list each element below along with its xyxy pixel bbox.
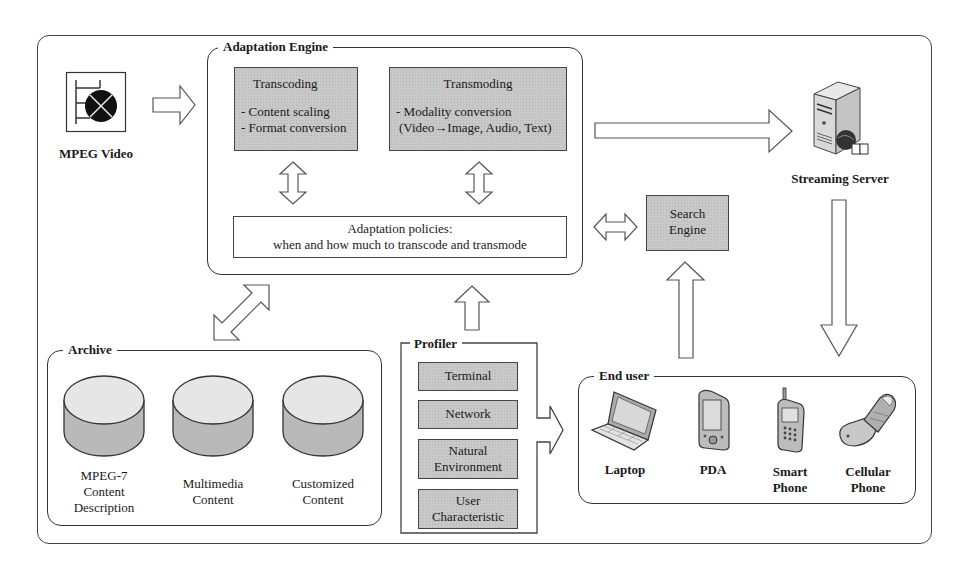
archive-store: Customized Content — [282, 372, 364, 522]
policies-line2: when and how much to transcode and trans… — [234, 237, 566, 253]
database-icon — [172, 372, 254, 460]
bidirectional-arrow-icon — [279, 162, 309, 206]
search-engine-module: Search Engine — [646, 195, 729, 251]
archive-store-label: Content — [272, 492, 374, 508]
mpeg-video-node — [66, 72, 126, 132]
archive-store-label: Description — [53, 500, 155, 516]
end-user-title: End user — [594, 369, 654, 383]
search-engine-line2: Engine — [647, 222, 728, 238]
streaming-server-label: Streaming Server — [775, 171, 905, 187]
arrow-down-icon — [817, 200, 861, 360]
database-icon — [63, 372, 145, 460]
end-user-device: PDA — [688, 388, 738, 488]
transcoding-item: - Content scaling — [241, 104, 357, 120]
video-film-icon — [66, 72, 126, 132]
arrow-up-icon — [666, 262, 710, 360]
end-user-device: Cellular Phone — [838, 392, 898, 492]
device-label: Smart — [750, 464, 830, 480]
profiler-item-label: Environment — [419, 459, 517, 475]
transmoding-module: Transmoding - Modality conversion (Video… — [389, 67, 567, 151]
adaptation-engine-title: Adaptation Engine — [218, 40, 333, 54]
archive-title: Archive — [63, 343, 117, 357]
transcoding-module: Transcoding - Content scaling - Format c… — [234, 67, 358, 151]
laptop-icon — [590, 388, 660, 452]
arrow-right-icon — [153, 86, 197, 126]
arrow-right-icon — [595, 110, 795, 154]
pda-icon — [693, 388, 733, 452]
profiler-item: User Characteristic — [418, 489, 518, 529]
end-user-device: Laptop — [590, 388, 660, 488]
database-icon — [282, 372, 364, 460]
archive-store-label: Content — [162, 492, 264, 508]
bidirectional-arrow-icon — [594, 212, 640, 244]
streaming-server-node — [808, 78, 878, 160]
transmoding-item: - Modality conversion — [396, 104, 566, 120]
end-user-device: Smart Phone — [768, 388, 812, 498]
profiler-item: Natural Environment — [418, 439, 518, 479]
mpeg-video-label: MPEG Video — [46, 146, 146, 162]
server-icon — [808, 78, 878, 160]
archive-store: MPEG-7 Content Description — [63, 372, 145, 522]
device-label: Phone — [750, 480, 830, 496]
archive-store: Multimedia Content — [172, 372, 254, 522]
archive-store-label: Multimedia — [162, 476, 264, 492]
profiler-item: Network — [418, 400, 518, 429]
transmoding-title: Transmoding — [396, 76, 566, 92]
transmoding-item: (Video→Image, Audio, Text) — [396, 120, 566, 136]
device-label: Phone — [828, 480, 908, 496]
archive-store-label: Customized — [272, 476, 374, 492]
profiler-title: Profiler — [414, 336, 457, 352]
device-label: PDA — [700, 462, 727, 477]
arrow-up-icon — [454, 286, 494, 332]
device-label: Cellular — [828, 464, 908, 480]
search-engine-line1: Search — [647, 206, 728, 222]
profiler-item-label: Natural — [419, 443, 517, 459]
profiler-item-label: Terminal — [445, 368, 492, 383]
smartphone-icon — [772, 388, 808, 454]
transcoding-title: Transcoding — [241, 76, 357, 92]
archive-store-label: MPEG-7 — [53, 468, 155, 484]
device-label: Laptop — [605, 462, 645, 477]
profiler-item-label: Characteristic — [419, 509, 517, 525]
adaptation-policies-box: Adaptation policies: when and how much t… — [233, 216, 567, 258]
profiler-item-label: User — [419, 493, 517, 509]
transcoding-item: - Format conversion — [241, 120, 357, 136]
bidirectional-arrow-icon — [465, 162, 495, 206]
profiler-item: Terminal — [418, 362, 518, 391]
archive-store-label: Content — [53, 484, 155, 500]
policies-line1: Adaptation policies: — [234, 221, 566, 237]
flip-phone-icon — [838, 392, 898, 448]
profiler-item-label: Network — [445, 406, 491, 421]
bidirectional-arrow-icon — [213, 284, 271, 342]
